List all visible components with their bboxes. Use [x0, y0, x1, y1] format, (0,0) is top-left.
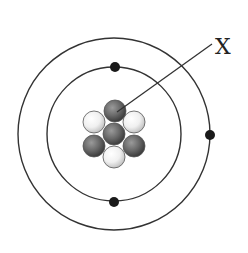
particle-dark-top: [104, 100, 126, 122]
nucleus: [83, 100, 145, 168]
atom-diagram: X: [0, 0, 248, 253]
pointer-line: [117, 44, 212, 112]
particle-light-upper-left: [83, 111, 105, 133]
electron-inner-bottom: [109, 197, 119, 207]
particle-dark-lower-left: [83, 135, 105, 157]
electron-inner-top: [110, 62, 120, 72]
label-x: X: [215, 34, 231, 59]
particle-dark-center: [103, 123, 125, 145]
electron-outer-right: [205, 130, 215, 140]
particle-dark-lower-right: [123, 135, 145, 157]
particle-light-bottom: [103, 146, 125, 168]
particle-light-upper-right: [123, 111, 145, 133]
